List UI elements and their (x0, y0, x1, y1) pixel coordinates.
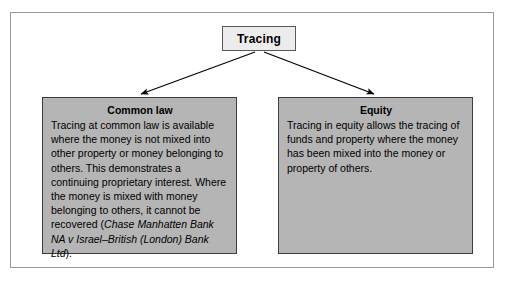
node-tracing-label: Tracing (237, 32, 281, 46)
node-common-law-title: Common law (51, 104, 229, 117)
diagram-canvas: Tracing Common law Tracing at common law… (0, 0, 515, 281)
node-tracing[interactable]: Tracing (222, 26, 296, 51)
node-equity-body-text: Tracing in equity allows the tracing of … (287, 119, 459, 174)
node-equity[interactable]: Equity Tracing in equity allows the trac… (278, 97, 473, 254)
node-common-law-body-tail: ). (66, 247, 72, 259)
node-equity-title: Equity (287, 104, 465, 117)
node-common-law-body-text: Tracing at common law is available where… (51, 119, 226, 230)
node-equity-body: Tracing in equity allows the tracing of … (287, 118, 465, 175)
node-common-law-body: Tracing at common law is available where… (51, 118, 229, 260)
node-common-law[interactable]: Common law Tracing at common law is avai… (42, 97, 237, 254)
